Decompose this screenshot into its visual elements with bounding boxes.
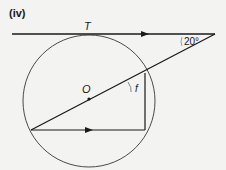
part-label: (iv) — [9, 8, 26, 19]
parallel-arrow-icon — [141, 31, 149, 37]
point-t-label: T — [84, 21, 91, 32]
parallel-arrow-icon — [85, 127, 93, 133]
angle-arc-20 — [181, 37, 182, 46]
diagram-canvas — [0, 0, 226, 170]
point-o-label: O — [82, 84, 91, 95]
angle-20-label: 20° — [184, 37, 199, 47]
angle-f-label: f — [135, 84, 138, 94]
geometry-diagram: (iv) T O f 20° — [0, 0, 226, 170]
centre-point — [87, 97, 90, 100]
circle — [23, 35, 155, 167]
secant-line — [31, 34, 215, 130]
angle-arc-f — [128, 82, 131, 92]
